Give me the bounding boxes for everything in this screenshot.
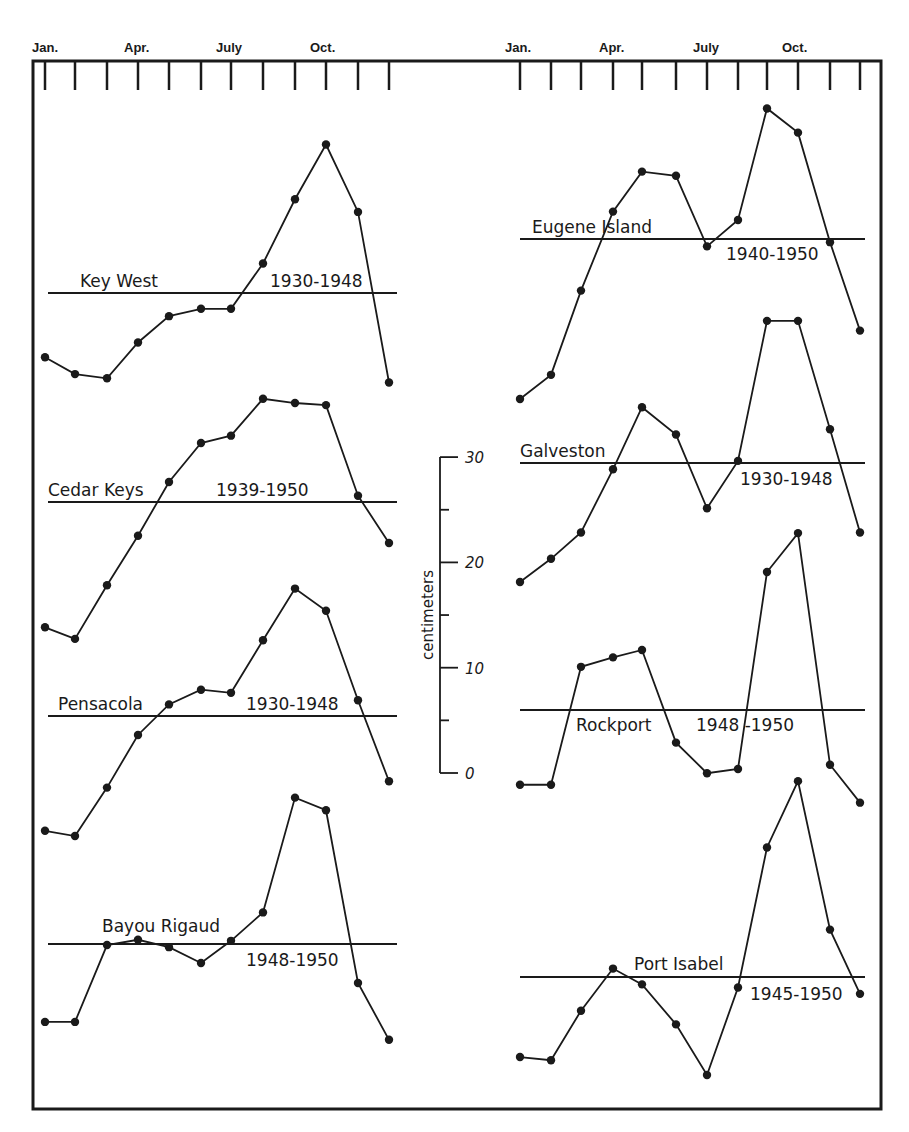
period-label: 1930-1948 xyxy=(270,271,363,291)
station-label: Key West xyxy=(80,271,158,291)
data-point xyxy=(672,172,680,180)
data-point xyxy=(134,731,142,739)
data-point xyxy=(577,1006,585,1014)
data-point xyxy=(103,941,111,949)
data-point xyxy=(259,395,267,403)
data-point xyxy=(41,353,49,361)
series-bayou-rigaud: Bayou Rigaud1948-1950 xyxy=(41,793,397,1044)
data-point xyxy=(103,374,111,382)
data-point xyxy=(134,338,142,346)
data-point xyxy=(103,581,111,589)
data-point xyxy=(41,827,49,835)
data-point xyxy=(609,964,617,972)
data-point xyxy=(794,317,802,325)
data-point xyxy=(856,528,864,536)
data-point xyxy=(672,1020,680,1028)
data-point xyxy=(856,798,864,806)
scale-tick-label: 20 xyxy=(465,554,484,572)
data-point xyxy=(71,1018,79,1026)
data-point xyxy=(354,696,362,704)
data-point xyxy=(322,140,330,148)
data-point xyxy=(609,465,617,473)
data-point xyxy=(197,305,205,313)
data-point xyxy=(134,936,142,944)
data-point xyxy=(547,555,555,563)
series-galveston: Galveston1930-1948 xyxy=(516,317,865,587)
data-point xyxy=(291,195,299,203)
data-point xyxy=(516,395,524,403)
series-eugene-island: Eugene Island1940-1950 xyxy=(516,104,865,403)
data-point xyxy=(516,578,524,586)
data-point xyxy=(734,983,742,991)
month-label: Apr. xyxy=(124,40,149,55)
scale-tick-label: 30 xyxy=(465,449,484,467)
scale-axis-label: centimeters xyxy=(419,570,437,660)
data-point xyxy=(385,777,393,785)
month-labels: Jan.Apr.JulyOct.Jan.Apr.JulyOct. xyxy=(32,40,807,55)
data-point xyxy=(103,783,111,791)
data-point xyxy=(71,635,79,643)
data-point xyxy=(197,959,205,967)
data-point xyxy=(826,925,834,933)
data-point xyxy=(609,207,617,215)
data-point xyxy=(794,777,802,785)
data-point xyxy=(763,843,771,851)
data-point xyxy=(322,806,330,814)
data-point xyxy=(227,937,235,945)
series-line xyxy=(520,533,860,803)
data-point xyxy=(794,128,802,136)
data-point xyxy=(41,1018,49,1026)
data-point xyxy=(638,646,646,654)
data-point xyxy=(165,700,173,708)
series-line xyxy=(520,781,860,1075)
data-point xyxy=(703,1071,711,1079)
data-point xyxy=(856,990,864,998)
period-label: 1930-1948 xyxy=(246,694,339,714)
month-label: Oct. xyxy=(782,40,807,55)
data-point xyxy=(291,584,299,592)
station-label: Eugene Island xyxy=(532,217,652,237)
data-point xyxy=(856,326,864,334)
data-point xyxy=(547,1056,555,1064)
data-point xyxy=(672,738,680,746)
data-point xyxy=(41,623,49,631)
data-point xyxy=(638,167,646,175)
scale-tick-label: 10 xyxy=(465,660,484,678)
data-point xyxy=(794,529,802,537)
data-point xyxy=(227,305,235,313)
data-point xyxy=(385,1036,393,1044)
period-label: 1940-1950 xyxy=(726,244,819,264)
station-label: Rockport xyxy=(576,715,652,735)
month-label: Jan. xyxy=(505,40,531,55)
period-label: 1948 -1950 xyxy=(696,715,794,735)
series-rockport: Rockport1948 -1950 xyxy=(516,529,865,807)
period-label: 1939-1950 xyxy=(216,480,309,500)
data-point xyxy=(703,504,711,512)
month-label: July xyxy=(693,40,720,55)
data-point xyxy=(71,832,79,840)
data-point xyxy=(165,478,173,486)
station-label: Port Isabel xyxy=(634,954,723,974)
data-point xyxy=(826,425,834,433)
data-point xyxy=(547,781,555,789)
series-port-isabel: Port Isabel1945-1950 xyxy=(516,777,865,1079)
data-point xyxy=(227,431,235,439)
data-point xyxy=(826,238,834,246)
data-point xyxy=(197,685,205,693)
data-point xyxy=(516,781,524,789)
data-point xyxy=(734,765,742,773)
data-point xyxy=(227,689,235,697)
series-key-west: Key West1930-1948 xyxy=(41,140,397,386)
data-point xyxy=(672,430,680,438)
data-point xyxy=(734,457,742,465)
data-point xyxy=(577,663,585,671)
data-point xyxy=(638,980,646,988)
data-point xyxy=(259,636,267,644)
data-point xyxy=(291,399,299,407)
data-point xyxy=(259,908,267,916)
data-point xyxy=(763,568,771,576)
station-label: Cedar Keys xyxy=(48,480,144,500)
chart-frame xyxy=(33,61,881,1109)
data-point xyxy=(165,943,173,951)
data-point xyxy=(763,317,771,325)
